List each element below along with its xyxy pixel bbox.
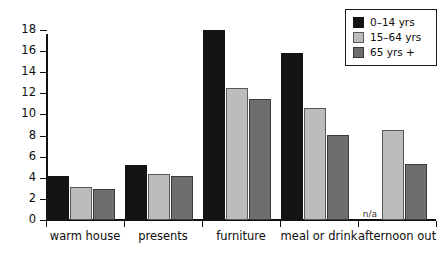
y-tick-label: 12	[0, 87, 36, 99]
x-tick-mark	[46, 221, 47, 227]
bar	[148, 174, 170, 220]
bar	[327, 135, 349, 221]
y-tick-label: 0	[0, 214, 36, 226]
y-tick-label: 6	[0, 151, 36, 163]
bar	[249, 99, 271, 220]
legend-label-series-1: 15–64 yrs	[370, 32, 421, 43]
legend-item-0[interactable]: 0–14 yrs	[353, 15, 430, 30]
y-tick-label: 18	[0, 24, 36, 36]
bar	[281, 53, 303, 220]
y-tick-label: 2	[0, 193, 36, 205]
x-tick-mark	[358, 221, 359, 227]
bar	[304, 108, 326, 220]
y-tick-label: 10	[0, 108, 36, 120]
y-tick-label: 4	[0, 172, 36, 184]
y-tick-label: 8	[0, 130, 36, 142]
y-tick-label: 14	[0, 66, 36, 78]
bar-na-label: n/a	[359, 210, 381, 219]
x-tick-mark	[124, 221, 125, 227]
legend: 0–14 yrs 15–64 yrs 65 yrs +	[345, 9, 437, 66]
x-axis-label: presents	[124, 231, 202, 243]
bar	[203, 30, 225, 220]
bar	[405, 164, 427, 220]
legend-swatch-icon-series-2	[353, 47, 364, 58]
x-axis-label: afternoon out	[358, 231, 436, 243]
bar	[70, 187, 92, 220]
bar	[226, 88, 248, 220]
x-tick-mark	[280, 221, 281, 227]
bar-chart: 024681012141618 n/a warm housepresentsfu…	[0, 0, 446, 258]
bar	[382, 130, 404, 220]
legend-item-2[interactable]: 65 yrs +	[353, 45, 430, 60]
x-tick-mark	[202, 221, 203, 227]
x-axis-label: warm house	[46, 231, 124, 243]
bar	[47, 176, 69, 220]
x-axis-label: furniture	[202, 231, 280, 243]
legend-label-series-0: 0–14 yrs	[370, 17, 415, 28]
y-tick-label: 16	[0, 45, 36, 57]
x-axis-label: meal or drink	[280, 231, 358, 243]
legend-item-1[interactable]: 15–64 yrs	[353, 30, 430, 45]
bar	[125, 165, 147, 220]
bar	[93, 189, 115, 220]
bar	[171, 176, 193, 220]
legend-label-series-2: 65 yrs +	[370, 47, 415, 58]
legend-swatch-icon-series-1	[353, 32, 364, 43]
x-tick-mark	[436, 221, 437, 227]
legend-swatch-icon-series-0	[353, 17, 364, 28]
